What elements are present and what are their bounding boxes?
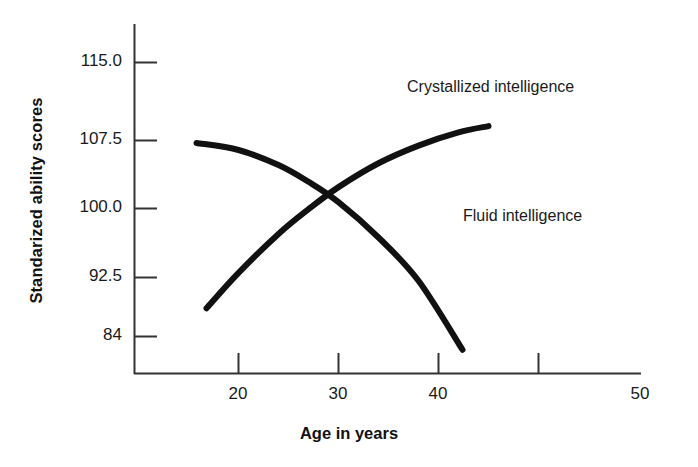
x-tick-label-40: 40 — [413, 384, 463, 404]
y-tick-label-92-5: 92.5 — [56, 266, 122, 286]
y-tick-label-100: 100.0 — [56, 197, 122, 217]
chart-container: Standarized ability scores Age in years … — [0, 0, 698, 467]
y-axis-title-text: Standarized ability scores — [27, 97, 46, 303]
y-tick-label-115: 115.0 — [56, 51, 122, 71]
x-axis-title-text: Age in years — [0, 424, 698, 443]
y-axis-title: Standarized ability scores — [14, 0, 58, 400]
series-annotation-crystallized-intelligence: Crystallized intelligence — [407, 78, 574, 96]
series-annotation-fluid-intelligence: Fluid intelligence — [463, 207, 582, 225]
x-tick-label-30: 30 — [313, 384, 363, 404]
x-tick-label-20: 20 — [213, 384, 263, 404]
y-tick-label-107-5: 107.5 — [56, 129, 122, 149]
y-tick-label-84: 84 — [56, 325, 122, 345]
series-line-fluid-intelligence — [197, 143, 463, 350]
x-tick-label-50: 50 — [615, 384, 665, 404]
